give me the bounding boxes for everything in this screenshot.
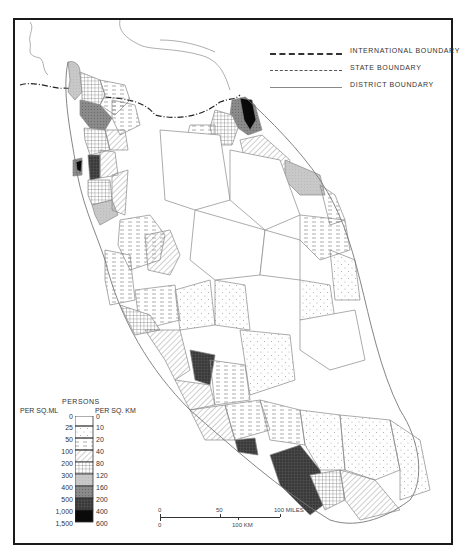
scale-label-miles-0: 0 [158,507,161,513]
legend-label: STATE BOUNDARY [350,64,421,71]
legend-km-value: 400 [96,508,108,515]
legend-title: PERSONS [62,398,100,405]
scale-label-km-0: 0 [158,522,161,528]
scale-label-miles-50: 50 [216,507,223,513]
legend-district: DISTRICT BOUNDARY [270,80,450,97]
legend-km-value: 0 [96,413,100,420]
legend-km-value: 10 [96,424,104,431]
legend-header-km: PER SQ. KM [95,407,136,414]
legend-km-value: 80 [96,460,104,467]
scale-line [160,517,280,518]
legend-mi-value: 0 [69,413,73,420]
legend-mi-value: 400 [61,484,73,491]
legend-mi-value: 300 [61,472,73,479]
coastline-north [30,20,230,90]
district-line-icon [270,87,342,88]
legend-mi-value: 50 [65,436,73,443]
legend-mi-value: 1,000 [55,508,73,515]
legend-km-value: 200 [96,496,108,503]
legend-km-value: 160 [96,484,108,491]
legend-state: STATE BOUNDARY [270,63,450,80]
scale-label-km-100: 100 KM [232,522,253,528]
legend-mi-value: 100 [61,448,73,455]
scale-tick [280,514,281,517]
scale-label-miles-100: 100 MILES [274,507,304,513]
legend-mi-value: 25 [65,424,73,431]
international-line-icon [270,53,342,55]
legend-swatches [75,416,94,523]
state-line-icon [270,70,342,71]
legend-label: INTERNATIONAL BOUNDARY [350,47,460,54]
boundary-legend: INTERNATIONAL BOUNDARY STATE BOUNDARY DI… [270,46,450,97]
scale-tick [160,514,161,521]
legend-label: DISTRICT BOUNDARY [350,81,434,88]
scale-bar: 0 50 100 MILES 0 100 KM [158,505,358,535]
scale-tick [220,514,221,517]
legend-mi-value: 1,500 [55,520,73,527]
scale-tick [238,517,239,520]
legend-km-value: 600 [96,520,108,527]
legend-km-value: 40 [96,448,104,455]
legend-international: INTERNATIONAL BOUNDARY [270,46,450,63]
legend-mi-value: 500 [61,496,73,503]
legend-km-value: 120 [96,472,108,479]
legend-mi-value: 200 [61,460,73,467]
legend-km-value: 20 [96,436,104,443]
density-legend: PERSONS PER SQ.ML PER SQ. KM 0 25 50 100… [20,398,140,528]
legend-header-miles: PER SQ.ML [20,407,58,414]
